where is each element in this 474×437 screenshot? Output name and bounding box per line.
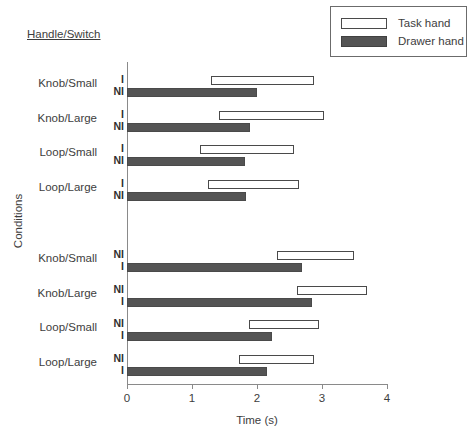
bar-drawer-hand bbox=[127, 263, 302, 272]
x-axis-tick-label: 3 bbox=[319, 392, 325, 404]
chart-legend: Task hand Drawer hand bbox=[330, 6, 467, 57]
legend-item-task-hand: Task hand bbox=[341, 14, 466, 32]
x-axis-tick bbox=[387, 384, 388, 389]
row-marker: NI bbox=[102, 283, 124, 295]
row-marker: NI bbox=[102, 85, 124, 97]
condition-label: Knob/Large bbox=[38, 287, 97, 299]
bar-drawer-hand bbox=[127, 88, 257, 97]
bar-drawer-hand bbox=[127, 157, 245, 166]
condition-label-column: INIKnob/SmallINIKnob/LargeINILoop/SmallI… bbox=[0, 0, 97, 437]
row-marker: I bbox=[102, 295, 124, 307]
row-marker: NI bbox=[102, 248, 124, 260]
condition-label: Loop/Small bbox=[39, 321, 97, 333]
row-marker: I bbox=[102, 177, 124, 189]
x-axis-title: Time (s) bbox=[127, 414, 387, 426]
bar-task-hand bbox=[297, 286, 367, 295]
legend-swatch-task-hand bbox=[341, 18, 387, 29]
bar-task-hand bbox=[219, 111, 324, 120]
bar-drawer-hand bbox=[127, 332, 272, 341]
bar-task-hand bbox=[249, 320, 319, 329]
row-marker: I bbox=[102, 260, 124, 272]
row-marker: NI bbox=[102, 154, 124, 166]
x-axis-tick-label: 0 bbox=[124, 392, 130, 404]
row-marker: I bbox=[102, 73, 124, 85]
x-axis-tick bbox=[257, 384, 258, 389]
row-marker: NI bbox=[102, 120, 124, 132]
bar-task-hand bbox=[208, 180, 299, 189]
row-marker: I bbox=[102, 142, 124, 154]
condition-label: Knob/Small bbox=[38, 252, 97, 264]
row-marker: I bbox=[102, 364, 124, 376]
row-marker: NI bbox=[102, 317, 124, 329]
bar-task-hand bbox=[211, 76, 314, 85]
chart-root: Task hand Drawer hand Handle/Switch Cond… bbox=[0, 0, 474, 437]
x-axis-tick-label: 2 bbox=[254, 392, 260, 404]
bar-task-hand bbox=[277, 251, 354, 260]
legend-label-drawer-hand: Drawer hand bbox=[398, 35, 464, 47]
bar-drawer-hand bbox=[127, 123, 250, 132]
bar-drawer-hand bbox=[127, 298, 312, 307]
x-axis-tick bbox=[322, 384, 323, 389]
plot-area: Time (s) 01234 bbox=[127, 62, 387, 384]
condition-label: Loop/Large bbox=[39, 356, 97, 368]
bar-drawer-hand bbox=[127, 192, 246, 201]
condition-label: Loop/Large bbox=[39, 181, 97, 193]
legend-swatch-drawer-hand bbox=[341, 36, 387, 47]
legend-item-drawer-hand: Drawer hand bbox=[341, 32, 466, 50]
condition-label: Loop/Small bbox=[39, 146, 97, 158]
row-marker: I bbox=[102, 329, 124, 341]
row-marker: NI bbox=[102, 189, 124, 201]
x-axis-tick bbox=[192, 384, 193, 389]
bar-task-hand bbox=[200, 145, 294, 154]
row-marker: I bbox=[102, 108, 124, 120]
x-axis-tick-label: 1 bbox=[189, 392, 195, 404]
row-marker: NI bbox=[102, 352, 124, 364]
bar-task-hand bbox=[239, 355, 314, 364]
condition-label: Knob/Large bbox=[38, 112, 97, 124]
legend-label-task-hand: Task hand bbox=[398, 17, 450, 29]
bar-drawer-hand bbox=[127, 367, 267, 376]
condition-label: Knob/Small bbox=[38, 77, 97, 89]
x-axis-tick-label: 4 bbox=[384, 392, 390, 404]
x-axis-tick bbox=[127, 384, 128, 389]
